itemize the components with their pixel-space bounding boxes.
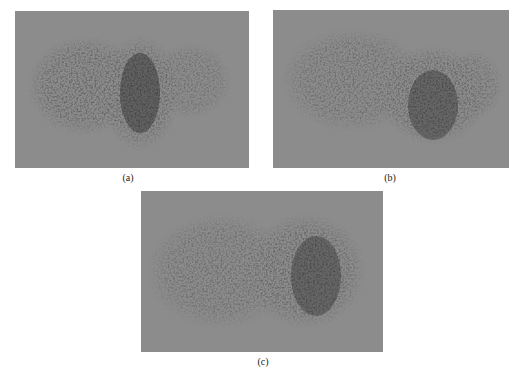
panel-b-image xyxy=(273,10,509,168)
panel-c-image xyxy=(141,191,383,352)
caption-c: (c) xyxy=(243,356,283,367)
caption-a: (a) xyxy=(108,172,148,183)
caption-b: (b) xyxy=(370,172,410,183)
speckle-pattern-a xyxy=(15,11,249,168)
speckle-pattern-b xyxy=(273,10,509,168)
speckle-pattern-c xyxy=(141,191,383,352)
panel-a-image xyxy=(15,11,249,168)
